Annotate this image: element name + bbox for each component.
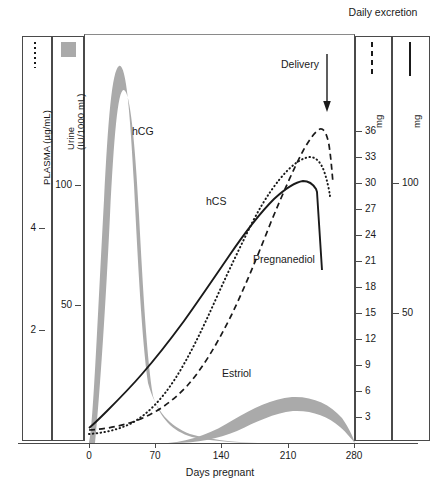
pregnanediol-curve <box>89 181 322 428</box>
plot-curves <box>0 0 434 489</box>
x-axis-title: Days pregnant <box>145 466 295 478</box>
x-tickmark <box>221 444 222 448</box>
hcg-band-early <box>89 66 266 443</box>
hcs-curve-label: hCS <box>206 195 226 207</box>
x-tick-label: 0 <box>69 450 109 461</box>
x-tick-label: 140 <box>201 450 241 461</box>
pregnancy-hormone-chart: Daily excretion PLASMA (µg/mL) Urine (IU… <box>0 0 434 489</box>
x-tickmark <box>155 444 156 448</box>
estriol-curve <box>89 129 333 430</box>
x-tick-label: 70 <box>135 450 175 461</box>
x-tick-label: 280 <box>334 450 374 461</box>
pregnanediol-curve-label: Pregnanediol <box>253 253 315 265</box>
x-tickmark <box>354 444 355 448</box>
x-tick-label: 210 <box>268 450 308 461</box>
delivery-annotation-label: Delivery <box>281 58 319 70</box>
delivery-arrow-icon <box>323 54 331 112</box>
x-tickmark <box>288 444 289 448</box>
estriol-curve-label: Estriol <box>222 367 251 379</box>
x-tickmark <box>89 444 90 448</box>
x-axis-line <box>18 443 418 444</box>
hcg-curve-label: hCG <box>132 125 154 137</box>
